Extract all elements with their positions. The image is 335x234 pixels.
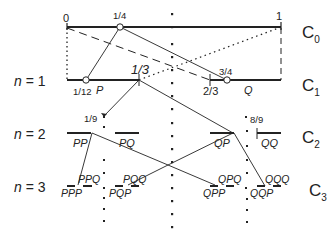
label-pq: PQ <box>119 137 135 149</box>
cantor-construction-diagram: 0 1/4 1 1/12 P 1/3 3/4 2/3 Q 1/9 8/9 PP … <box>0 0 335 234</box>
label-one: 1 <box>276 10 282 22</box>
label-zero: 0 <box>63 12 69 24</box>
row-label-n3: n = 3 <box>14 179 46 195</box>
map-line-cross-to-qpq <box>168 165 215 185</box>
label-qpq: QPQ <box>218 173 241 185</box>
label-pqq: PQQ <box>123 173 146 185</box>
label-qpp: QPP <box>203 187 225 199</box>
label-interval-q: Q <box>244 84 253 96</box>
label-three-quarters: 3/4 <box>219 66 232 77</box>
level-label-c0: C0 <box>302 23 320 45</box>
label-ninth: 1/9 <box>84 113 97 124</box>
level-label-c2: C2 <box>302 128 320 150</box>
label-pp: PP <box>73 137 88 149</box>
point-quarter <box>117 24 123 30</box>
point-twelfth <box>83 77 89 83</box>
point-three-quarters <box>224 77 230 83</box>
label-twelfth: 1/12 <box>73 86 92 97</box>
label-qqp: QQP <box>250 187 273 199</box>
label-two-thirds: 2/3 <box>203 85 218 97</box>
map-line-quarter-to-twelfth <box>86 27 120 80</box>
row-label-n2: n = 2 <box>14 126 46 142</box>
label-qq: QQ <box>261 137 279 149</box>
label-eight-ninths: 8/9 <box>250 114 263 125</box>
center-dotted-line <box>171 13 173 228</box>
label-quarter: 1/4 <box>113 10 126 21</box>
map-line-third-to-qp <box>139 80 233 133</box>
label-ppq: PPQ <box>78 173 100 185</box>
label-third: 1/3 <box>131 62 150 77</box>
left-dotted-line <box>103 116 105 222</box>
right-dotted-line <box>245 116 248 223</box>
level-label-c3: C3 <box>309 181 327 203</box>
label-qqq: QQQ <box>265 173 290 185</box>
label-pqp: PQP <box>109 187 131 199</box>
label-ppp: PPP <box>61 187 82 199</box>
row-label-n1: n = 1 <box>14 73 46 89</box>
map-line-third-to-ninth <box>104 80 139 116</box>
label-interval-p: P <box>96 84 104 96</box>
label-qp: QP <box>214 137 231 149</box>
level-label-c1: C1 <box>302 76 320 98</box>
